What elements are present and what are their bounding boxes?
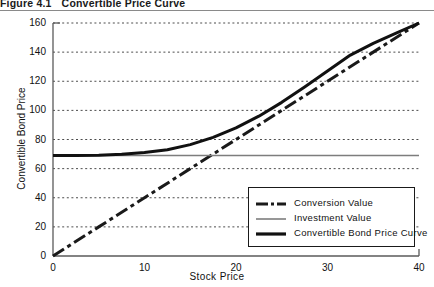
chart-legend: Conversion Value Investment Value Conver… xyxy=(248,187,415,247)
y-axis-tick-label: 160 xyxy=(20,17,46,28)
figure-number: Figure 4.1 xyxy=(0,0,52,9)
legend-label-investment-value: Investment Value xyxy=(294,212,372,223)
figure-title: Convertible Price Curve xyxy=(62,0,186,9)
y-axis-label: Convertible Bond Price xyxy=(16,69,27,209)
y-axis-tick-label: 20 xyxy=(20,221,46,232)
legend-item: Investment Value xyxy=(256,210,407,224)
y-axis-tick-label: 0 xyxy=(20,250,46,261)
x-axis-label: Stock Price xyxy=(0,271,434,282)
legend-label-convertible-bond-price-curve: Convertible Bond Price Curve xyxy=(294,227,428,238)
legend-item: Conversion Value xyxy=(256,195,407,209)
legend-swatch-convertible-bond-price-curve xyxy=(256,226,286,238)
series-line xyxy=(53,23,419,156)
caption-divider xyxy=(0,10,434,11)
legend-item: Convertible Bond Price Curve xyxy=(256,225,407,239)
chart-container: 020406080100120140160 010203040 Converti… xyxy=(0,13,434,287)
figure-caption: Figure 4.1Convertible Price Curve xyxy=(0,0,434,9)
legend-label-conversion-value: Conversion Value xyxy=(294,197,373,208)
legend-swatch-conversion-value xyxy=(256,196,286,208)
y-axis-tick-label: 140 xyxy=(20,46,46,57)
legend-swatch-investment-value xyxy=(256,211,286,223)
